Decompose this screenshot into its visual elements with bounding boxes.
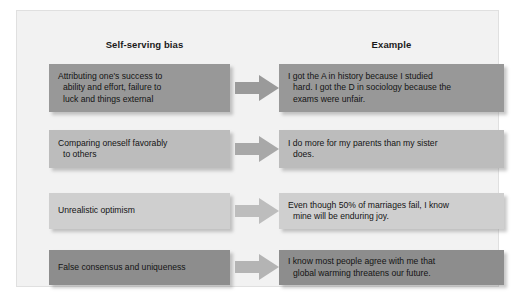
example-box[interactable]: I got the A in history because I studied… — [279, 64, 504, 112]
right-block-arrow-icon — [235, 75, 279, 101]
arrow-head — [259, 136, 279, 162]
example-text: I do more for my parents than my sister … — [284, 138, 445, 160]
bias-text: False consensus and uniqueness — [54, 262, 193, 273]
bias-text: Attributing one's success to ability and… — [54, 71, 169, 105]
figure-root: Self-serving bias Example Attributing on… — [0, 0, 515, 297]
bias-box[interactable]: Unrealistic optimism — [49, 193, 230, 229]
column-header-example: Example — [279, 39, 504, 50]
bias-box[interactable]: False consensus and uniqueness — [49, 250, 230, 285]
arrow-head — [259, 254, 279, 280]
right-block-arrow-icon — [235, 198, 279, 224]
bias-box[interactable]: Comparing oneself favorably to others — [49, 130, 230, 168]
example-box[interactable]: I do more for my parents than my sister … — [279, 130, 504, 168]
arrow-shaft — [235, 143, 261, 155]
example-box[interactable]: I know most people agree with me that gl… — [279, 250, 504, 285]
example-text: I know most people agree with me that gl… — [284, 256, 442, 278]
example-text: I got the A in history because I studied… — [284, 71, 458, 105]
example-box[interactable]: Even though 50% of marriages fail, I kno… — [279, 193, 504, 229]
figure-panel: Self-serving bias Example Attributing on… — [16, 10, 499, 287]
bias-box[interactable]: Attributing one's success to ability and… — [49, 64, 230, 112]
arrow-shaft — [235, 261, 261, 273]
arrow-shaft — [235, 82, 261, 94]
arrow-head — [259, 198, 279, 224]
arrow-shaft — [235, 205, 261, 217]
bias-text: Unrealistic optimism — [54, 205, 142, 216]
example-text: Even though 50% of marriages fail, I kno… — [284, 200, 456, 222]
right-block-arrow-icon — [235, 136, 279, 162]
right-block-arrow-icon — [235, 254, 279, 280]
bias-text: Comparing oneself favorably to others — [54, 138, 174, 160]
arrow-head — [259, 75, 279, 101]
column-header-self-serving-bias: Self-serving bias — [57, 39, 232, 50]
